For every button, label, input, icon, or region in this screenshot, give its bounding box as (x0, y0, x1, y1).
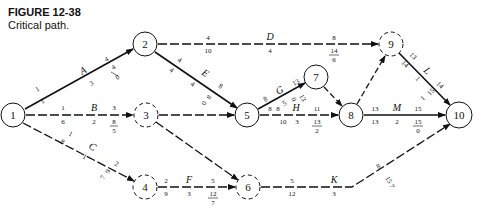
edge-dummy-8-9 (357, 56, 385, 104)
svg-text:5: 5 (281, 99, 288, 108)
critical-path-network: 1 2 3 4 5 6 7 8 9 10 1 1 A 3 4 (0, 0, 494, 219)
svg-text:11: 11 (314, 105, 321, 113)
svg-text:8: 8 (276, 105, 280, 113)
node-1: 1 (1, 103, 25, 127)
svg-text:0: 0 (416, 127, 420, 135)
labels-activity-d: 4 10 D 4 8 14 6 (205, 31, 340, 64)
svg-text:7: 7 (99, 174, 108, 181)
svg-text:8: 8 (268, 105, 272, 113)
svg-text:13: 13 (372, 118, 380, 126)
svg-text:13: 13 (372, 105, 380, 113)
svg-text:7: 7 (211, 199, 215, 207)
svg-text:4: 4 (268, 47, 272, 55)
edge-e (155, 52, 237, 108)
labels-activity-f: 2 9 F 3 5 12 7 (164, 174, 218, 207)
node-3: 3 (134, 103, 158, 127)
svg-text:E: E (199, 66, 211, 79)
svg-text:5: 5 (290, 177, 294, 185)
svg-text:2: 2 (315, 127, 319, 135)
svg-text:1: 1 (67, 130, 74, 139)
svg-text:0: 0 (114, 73, 121, 82)
svg-text:10: 10 (205, 47, 213, 55)
svg-text:L: L (421, 64, 434, 77)
svg-text:12: 12 (289, 190, 297, 198)
svg-text:15: 15 (415, 118, 423, 126)
labels-activity-k: 5 12 K 3 8 15 7 (289, 162, 397, 198)
svg-text:5: 5 (211, 177, 215, 185)
svg-text:8: 8 (59, 138, 66, 147)
svg-text:6: 6 (245, 181, 251, 193)
svg-text:1: 1 (414, 75, 422, 83)
svg-text:3: 3 (143, 109, 149, 121)
svg-text:F: F (185, 174, 193, 185)
labels-activity-c: 1 8 C 1 2 9 7 (59, 130, 120, 181)
svg-text:C: C (87, 140, 98, 153)
node-4: 4 (133, 175, 157, 199)
svg-text:4: 4 (176, 56, 184, 65)
node-8: 8 (339, 103, 363, 127)
svg-text:1: 1 (419, 94, 427, 102)
node-9: 9 (379, 32, 403, 56)
node-5: 5 (235, 103, 259, 127)
svg-text:12: 12 (210, 190, 218, 198)
svg-text:B: B (91, 102, 97, 113)
node-10: 10 (446, 102, 472, 128)
svg-text:8: 8 (375, 162, 383, 171)
svg-text:4: 4 (206, 34, 210, 42)
svg-text:5: 5 (112, 127, 116, 135)
svg-text:3: 3 (332, 190, 336, 198)
svg-text:9: 9 (164, 190, 168, 198)
svg-text:4: 4 (142, 181, 148, 193)
svg-text:14: 14 (400, 59, 411, 70)
svg-text:10: 10 (280, 118, 288, 126)
svg-text:14: 14 (435, 80, 446, 91)
svg-text:10: 10 (454, 109, 466, 121)
svg-text:2: 2 (142, 38, 148, 50)
svg-text:0: 0 (200, 99, 209, 107)
svg-text:2: 2 (164, 177, 168, 185)
svg-text:2: 2 (395, 118, 399, 126)
node-7: 7 (304, 65, 328, 89)
edge-c (23, 123, 134, 181)
edge-dummy-7-8 (324, 87, 342, 106)
svg-text:13: 13 (314, 118, 322, 126)
svg-text:7: 7 (313, 71, 319, 83)
node-6: 6 (236, 175, 260, 199)
svg-text:2: 2 (113, 160, 120, 169)
svg-text:8: 8 (205, 93, 214, 101)
svg-text:3: 3 (187, 190, 191, 198)
svg-text:4: 4 (168, 66, 176, 75)
edge-dummy-3-6 (156, 122, 238, 180)
svg-text:1: 1 (61, 104, 65, 112)
svg-text:6: 6 (61, 118, 65, 126)
svg-text:1: 1 (10, 109, 16, 121)
svg-text:3: 3 (112, 104, 116, 112)
svg-text:D: D (265, 31, 274, 42)
svg-text:K: K (330, 174, 339, 185)
svg-text:M: M (392, 102, 402, 113)
labels-activity-e: 4 4 E 4 8 8 0 (168, 56, 225, 107)
svg-text:15: 15 (415, 105, 423, 113)
svg-text:13: 13 (408, 51, 419, 62)
svg-text:1: 1 (34, 85, 41, 94)
labels-activity-h: 8 8 10 H 3 11 13 2 (268, 102, 322, 135)
svg-text:8: 8 (112, 118, 116, 126)
svg-text:5: 5 (244, 109, 250, 121)
svg-text:14: 14 (331, 47, 339, 55)
svg-text:6: 6 (332, 56, 336, 64)
labels-activity-m: 13 13 M 2 15 15 0 (372, 102, 424, 135)
svg-text:8: 8 (348, 109, 354, 121)
svg-text:2: 2 (92, 118, 96, 126)
svg-text:15: 15 (426, 86, 437, 97)
svg-text:8: 8 (332, 34, 336, 42)
svg-text:3: 3 (295, 118, 299, 126)
svg-text:4: 4 (189, 80, 197, 89)
svg-text:9: 9 (388, 38, 394, 50)
svg-text:3: 3 (88, 79, 95, 88)
svg-text:7: 7 (387, 183, 396, 190)
svg-text:8: 8 (217, 82, 225, 91)
svg-text:H: H (291, 102, 300, 113)
svg-text:4: 4 (110, 63, 117, 72)
node-2: 2 (133, 32, 157, 56)
